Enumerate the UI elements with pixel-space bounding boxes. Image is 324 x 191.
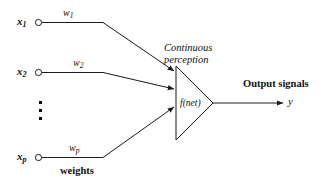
continuous-perception-caption: Continuous perception xyxy=(164,42,212,66)
ellipsis-dot xyxy=(39,109,42,112)
input-label-x2-sub: 2 xyxy=(23,70,27,79)
weight-label-w2: w2 xyxy=(73,58,83,70)
input-label-x1: x1 xyxy=(17,16,27,29)
connection-line-x1 xyxy=(42,23,174,72)
activation-function-label: f(net) xyxy=(180,99,201,109)
weight-label-wp-base: w xyxy=(69,142,76,153)
input-node-x2 xyxy=(35,69,41,75)
ellipsis-dot xyxy=(39,117,42,120)
weight-label-wp-sub: p xyxy=(76,146,80,155)
connection-line-x2 xyxy=(42,73,174,90)
output-signals-label: Output signals xyxy=(243,79,309,90)
continuous-perception-line2: perception xyxy=(164,54,212,66)
input-node-xp xyxy=(35,154,41,160)
connection-line-xp xyxy=(42,107,174,158)
ellipsis-vertical-dots xyxy=(39,101,42,120)
input-label-x1-sub: 1 xyxy=(23,20,27,29)
output-variable-label: y xyxy=(288,97,293,108)
weight-label-w2-base: w xyxy=(73,57,80,68)
weight-label-w1: w1 xyxy=(63,8,73,20)
weights-caption: weights xyxy=(60,166,94,177)
ellipsis-dot xyxy=(39,101,42,104)
weight-label-w1-base: w xyxy=(63,7,70,18)
diagram-svg xyxy=(0,0,324,191)
weight-label-w1-sub: 1 xyxy=(70,11,74,20)
input-node-x1 xyxy=(35,19,41,25)
input-label-xp: xp xyxy=(17,151,27,164)
weight-label-wp: wp xyxy=(69,143,79,155)
figure-canvas: x1 w1 x2 w2 xp wp weights Continuous per… xyxy=(0,0,324,191)
continuous-perception-line1: Continuous xyxy=(164,42,212,54)
weight-label-w2-sub: 2 xyxy=(80,61,84,70)
input-label-x2: x2 xyxy=(17,66,27,79)
input-label-xp-sub: p xyxy=(23,155,27,164)
